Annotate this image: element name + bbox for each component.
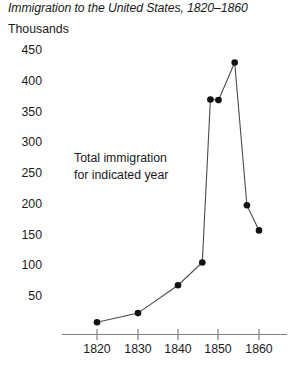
data-point-1840 (175, 282, 182, 289)
data-point-1850 (215, 97, 222, 104)
data-point-1857 (244, 202, 251, 209)
data-point-1846 (199, 259, 206, 266)
data-point-1854 (231, 59, 238, 66)
data-point-1848 (207, 96, 214, 103)
x-tick-label-1860: 1860 (235, 343, 283, 355)
plot-area (0, 0, 294, 367)
data-point-1830 (135, 310, 142, 317)
immigration-line-chart: Immigration to the United States, 1820–1… (0, 0, 294, 367)
data-point-1860 (256, 227, 263, 234)
data-point-1820 (94, 319, 101, 326)
